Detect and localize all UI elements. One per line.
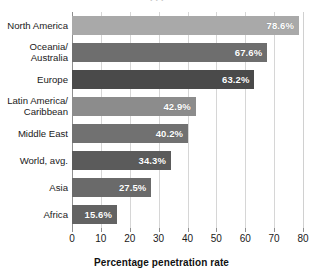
category-label: Africa	[0, 209, 68, 220]
category-label: North America	[0, 20, 68, 31]
plot-area: 78.6%67.6%63.2%42.9%40.2%34.3%27.5%15.6%	[72, 12, 303, 228]
category-label: Oceania/ Australia	[0, 41, 68, 63]
bar-row: 78.6%	[72, 16, 303, 35]
bar-row: 27.5%	[72, 178, 303, 197]
tickmark-10	[101, 228, 102, 232]
bar: 78.6%	[72, 16, 299, 35]
bar-value-label: 34.3%	[139, 155, 171, 166]
bar: 67.6%	[72, 43, 267, 62]
bar: 42.9%	[72, 97, 196, 116]
bar-row: 42.9%	[72, 97, 303, 116]
bar-row: 63.2%	[72, 70, 303, 89]
bar: 27.5%	[72, 178, 151, 197]
bar: 63.2%	[72, 70, 254, 89]
tickmark-20	[130, 228, 131, 232]
bar: 40.2%	[72, 124, 188, 143]
bar-value-label: 78.6%	[267, 20, 299, 31]
bar-value-label: 67.6%	[235, 47, 267, 58]
category-label: World, avg.	[0, 155, 68, 166]
tick-label-30: 30	[144, 233, 174, 244]
bar-chart: ... 78.6%67.6%63.2%42.9%40.2%34.3%27.5%1…	[0, 0, 323, 280]
tick-label-70: 70	[259, 233, 289, 244]
category-label: Latin America/ Caribbean	[0, 95, 68, 117]
tick-label-60: 60	[230, 233, 260, 244]
tick-label-0: 0	[57, 233, 87, 244]
tick-label-20: 20	[115, 233, 145, 244]
bar-value-label: 15.6%	[85, 209, 117, 220]
gridline-80	[303, 12, 304, 228]
x-axis-title: Percentage penetration rate	[0, 257, 323, 268]
bar-value-label: 42.9%	[163, 101, 195, 112]
bar-row: 15.6%	[72, 205, 303, 224]
tickmark-50	[216, 228, 217, 232]
bar-value-label: 40.2%	[156, 128, 188, 139]
clipped-title-remnant: ...	[150, 0, 323, 2]
bar-row: 34.3%	[72, 151, 303, 170]
bar: 15.6%	[72, 205, 117, 224]
tick-label-10: 10	[86, 233, 116, 244]
bar-row: 67.6%	[72, 43, 303, 62]
bar-rows: 78.6%67.6%63.2%42.9%40.2%34.3%27.5%15.6%	[72, 12, 303, 228]
tick-label-50: 50	[201, 233, 231, 244]
tick-label-40: 40	[173, 233, 203, 244]
tickmark-60	[245, 228, 246, 232]
category-label: Europe	[0, 74, 68, 85]
bar-value-label: 63.2%	[222, 74, 254, 85]
tickmark-30	[159, 228, 160, 232]
tickmark-40	[188, 228, 189, 232]
bar-value-label: 27.5%	[119, 182, 151, 193]
bar-row: 40.2%	[72, 124, 303, 143]
tick-label-80: 80	[288, 233, 318, 244]
x-axis-tick-labels: 01020304050607080	[0, 233, 323, 249]
tickmark-0	[72, 228, 73, 232]
tickmark-80	[303, 228, 304, 232]
category-label: Asia	[0, 182, 68, 193]
tickmark-70	[274, 228, 275, 232]
bar: 34.3%	[72, 151, 171, 170]
category-label: Middle East	[0, 128, 68, 139]
